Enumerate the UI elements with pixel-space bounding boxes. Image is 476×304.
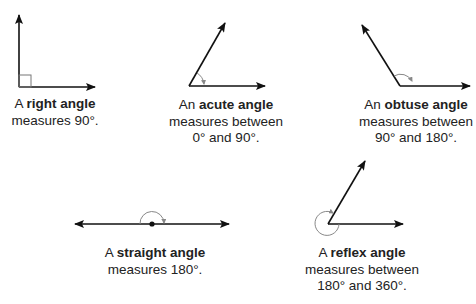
acute-angle-figure xyxy=(189,23,265,86)
angle-name: obtuse angle xyxy=(385,97,468,112)
angle-name: right angle xyxy=(27,96,96,111)
reflex-angle-figure xyxy=(315,161,403,235)
obtuse-angle-caption: An obtuse angle measures between 90° and… xyxy=(358,97,474,147)
straight-angle-caption: A straight angle measures 180°. xyxy=(95,245,215,278)
angle-name: reflex angle xyxy=(330,245,405,260)
straight-angle-figure xyxy=(75,211,229,226)
acute-angle-caption: An acute angle measures between 0° and 9… xyxy=(168,97,284,147)
acute-arc-icon xyxy=(197,73,204,84)
vertex-dot-icon xyxy=(149,221,154,226)
right-angle-caption: A right angle measures 90°. xyxy=(0,96,110,129)
obtuse-angle-figure xyxy=(362,25,470,86)
right-angle-figure xyxy=(19,15,95,87)
angle-name: straight angle xyxy=(117,245,206,260)
angle-name: acute angle xyxy=(199,97,273,112)
right-angle-marker-icon xyxy=(19,75,31,87)
reflex-angle-caption: A reflex angle measures between 180° and… xyxy=(300,245,424,295)
